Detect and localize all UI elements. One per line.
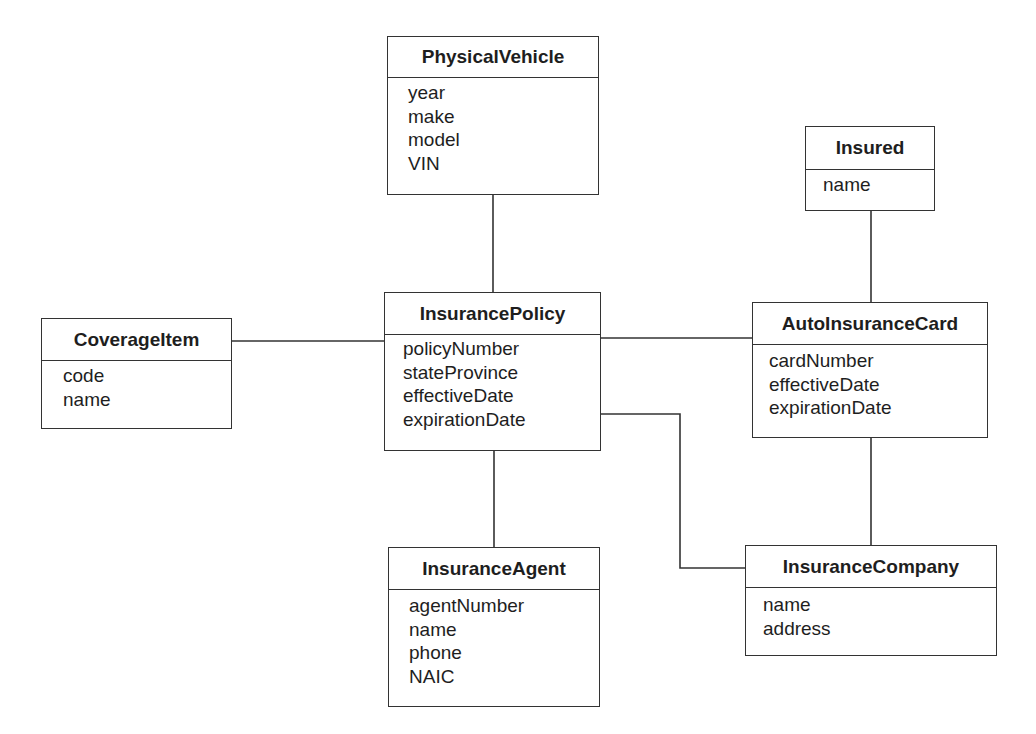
attribute-list: name address — [746, 588, 996, 640]
attribute: stateProvince — [403, 361, 600, 385]
entity-title: InsuranceAgent — [389, 548, 599, 590]
attribute-list: agentNumber name phone NAIC — [389, 590, 599, 688]
attribute: VIN — [408, 152, 598, 176]
attribute: name — [409, 618, 599, 642]
attribute-list: name — [806, 170, 934, 197]
entity-title: InsurancePolicy — [385, 293, 600, 335]
entity-title: InsuranceCompany — [746, 546, 996, 588]
attribute-list: year make model VIN — [388, 78, 598, 175]
attribute-list: code name — [42, 361, 231, 411]
entity-auto-insurance-card[interactable]: AutoInsuranceCard cardNumber effectiveDa… — [752, 302, 988, 438]
attribute: policyNumber — [403, 337, 600, 361]
entity-title: Insured — [806, 127, 934, 170]
attribute: agentNumber — [409, 594, 599, 618]
entity-coverage-item[interactable]: CoverageItem code name — [41, 318, 232, 429]
attribute: effectiveDate — [403, 384, 600, 408]
attribute: name — [763, 593, 996, 617]
entity-insurance-agent[interactable]: InsuranceAgent agentNumber name phone NA… — [388, 547, 600, 707]
entity-title: AutoInsuranceCard — [753, 303, 987, 345]
attribute: address — [763, 617, 996, 641]
attribute: name — [823, 173, 934, 197]
attribute: expirationDate — [403, 408, 600, 432]
entity-physical-vehicle[interactable]: PhysicalVehicle year make model VIN — [387, 36, 599, 195]
attribute: code — [63, 364, 231, 388]
attribute: make — [408, 105, 598, 129]
attribute: model — [408, 128, 598, 152]
attribute: phone — [409, 641, 599, 665]
class-diagram-canvas: PhysicalVehicle year make model VIN Insu… — [0, 0, 1036, 734]
attribute: effectiveDate — [769, 373, 987, 397]
entity-insurance-company[interactable]: InsuranceCompany name address — [745, 545, 997, 656]
attribute-list: policyNumber stateProvince effectiveDate… — [385, 335, 600, 431]
attribute: cardNumber — [769, 349, 987, 373]
entity-title: CoverageItem — [42, 319, 231, 361]
attribute: year — [408, 81, 598, 105]
entity-title: PhysicalVehicle — [388, 37, 598, 78]
attribute: NAIC — [409, 665, 599, 689]
attribute-list: cardNumber effectiveDate expirationDate — [753, 345, 987, 420]
attribute: name — [63, 388, 231, 412]
entity-insured[interactable]: Insured name — [805, 126, 935, 211]
entity-insurance-policy[interactable]: InsurancePolicy policyNumber stateProvin… — [384, 292, 601, 451]
association-policy-company — [601, 414, 745, 568]
attribute: expirationDate — [769, 396, 987, 420]
